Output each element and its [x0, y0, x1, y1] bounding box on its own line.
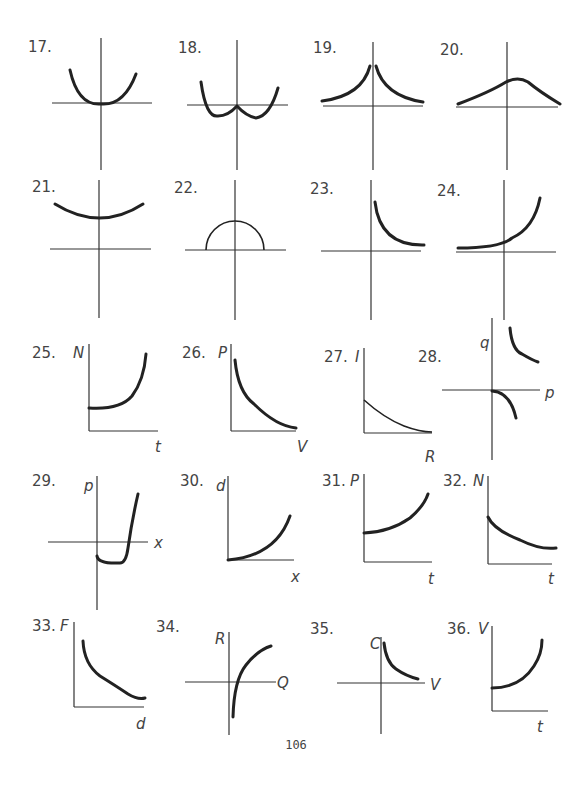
- axis-variable-label: t: [548, 570, 555, 588]
- graph-curve: [235, 360, 296, 428]
- problem-number: 35.: [310, 620, 334, 638]
- problem-number: 36.: [447, 620, 471, 638]
- axis-variable-label: I: [355, 348, 360, 366]
- graph-curve: [364, 400, 432, 432]
- graph-curve: [458, 79, 560, 104]
- axis-variable-label: x: [290, 568, 300, 586]
- axis-variable-label: x: [153, 534, 163, 552]
- problem-17: 17.: [28, 38, 152, 170]
- problem-number: 25.: [32, 344, 56, 362]
- axis-variable-label: C: [370, 635, 381, 653]
- problem-23: 23.: [310, 180, 424, 320]
- graph-curve: [492, 640, 542, 688]
- graph-curve: [510, 328, 538, 362]
- problem-32: 32.Nt: [443, 472, 556, 588]
- problem-number: 30.: [180, 472, 204, 490]
- problem-number: 24.: [437, 182, 461, 200]
- problem-number: 28.: [418, 348, 442, 366]
- axis-variable-label: t: [428, 570, 435, 588]
- problem-18: 18.: [178, 39, 288, 170]
- axis-variable-label: d: [216, 477, 226, 495]
- graph-curve: [364, 494, 428, 533]
- problem-number: 17.: [28, 38, 52, 56]
- axis-variable-label: F: [60, 617, 69, 635]
- graph-curve: [70, 70, 136, 104]
- graph-curve: [458, 198, 540, 248]
- graph-curve: [228, 516, 290, 560]
- problem-number: 22.: [174, 179, 198, 197]
- problem-number: 29.: [32, 472, 56, 490]
- problem-number: 27.: [324, 348, 348, 366]
- axis-variable-label: d: [136, 715, 146, 733]
- axis-variable-label: R: [425, 448, 435, 466]
- problem-number: 31.: [322, 472, 346, 490]
- axis-variable-label: t: [155, 438, 162, 456]
- axis-variable-label: P: [218, 344, 228, 362]
- problem-number: 20.: [440, 41, 464, 59]
- problem-22: 22.: [174, 179, 286, 320]
- problem-number: 21.: [32, 178, 56, 196]
- problem-36: 36.Vt: [447, 620, 548, 736]
- graph-curve: [488, 517, 556, 548]
- problem-19: 19.: [313, 39, 423, 170]
- problem-25: 25.Nt: [32, 344, 162, 456]
- problem-33: 33.Fd: [32, 617, 146, 733]
- problem-21: 21.: [32, 178, 151, 318]
- problem-34: 34.RQ: [156, 618, 289, 735]
- axis-variable-label: N: [73, 344, 84, 362]
- axis-variable-label: P: [350, 472, 360, 490]
- axis-variable-label: R: [215, 630, 225, 648]
- graph-curve: [384, 643, 418, 679]
- problem-29: 29.px: [32, 472, 163, 610]
- axis-variable-label: Q: [277, 674, 289, 692]
- problem-number: 34.: [156, 618, 180, 636]
- graph-curve: [201, 82, 278, 118]
- problem-number: 19.: [313, 39, 337, 57]
- graph-curve: [322, 66, 370, 101]
- page-number: 106: [285, 738, 307, 752]
- graph-curve: [492, 391, 516, 418]
- axis-variable-label: N: [473, 472, 484, 490]
- axis-variable-label: q: [480, 334, 490, 352]
- axis-variable-label: V: [297, 438, 309, 456]
- problem-number: 18.: [178, 39, 202, 57]
- axis-variable-label: p: [83, 477, 94, 495]
- problem-24: 24.: [437, 180, 556, 320]
- graph-curve: [375, 202, 424, 245]
- axis-variable-label: V: [430, 676, 442, 694]
- problem-20: 20.: [440, 41, 560, 170]
- problem-28: 28.qp: [418, 318, 555, 460]
- worksheet-page: 17.18.19.20.21.22.23.24.25.Nt26.PV27.IR2…: [0, 0, 588, 790]
- problem-35: 35.CV: [310, 620, 442, 734]
- graph-curve: [97, 494, 138, 563]
- graph-curve: [89, 354, 146, 408]
- problem-30: 30.dx: [180, 472, 300, 586]
- graph-curve: [376, 66, 423, 102]
- axis-variable-label: p: [544, 384, 555, 402]
- problem-31: 31.Pt: [322, 472, 435, 588]
- graph-problems: 17.18.19.20.21.22.23.24.25.Nt26.PV27.IR2…: [28, 38, 560, 736]
- problem-number: 23.: [310, 180, 334, 198]
- graph-curve: [83, 641, 145, 699]
- problem-number: 32.: [443, 472, 467, 490]
- axis-variable-label: V: [478, 620, 490, 638]
- axis-variable-label: t: [537, 718, 544, 736]
- problem-number: 26.: [182, 344, 206, 362]
- problem-number: 33.: [32, 617, 56, 635]
- problem-26: 26.PV: [182, 344, 309, 456]
